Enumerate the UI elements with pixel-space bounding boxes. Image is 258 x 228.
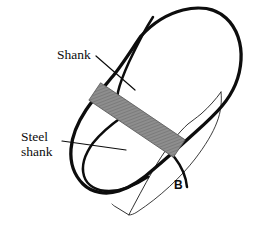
figure-shoe-sole-shank: Shank Steelshank B [0, 0, 258, 228]
label-steel-line1: Steel [21, 129, 48, 144]
label-shank: Shank [57, 48, 91, 63]
sole-diagram-svg [0, 0, 258, 228]
label-steel-shank: Steelshank [21, 130, 53, 159]
label-panel-b: B [174, 179, 183, 192]
label-steel-line2: shank [21, 144, 53, 159]
steel-shank [89, 83, 185, 157]
